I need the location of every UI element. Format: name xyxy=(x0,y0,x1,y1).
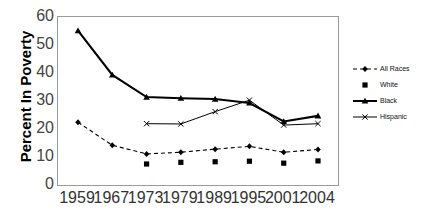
legend-swatch-icon xyxy=(352,111,378,123)
series-black xyxy=(75,27,322,124)
y-tick-label: 40 xyxy=(28,64,54,80)
poverty-line-chart: Percent In Poverty 6050403020100 1959196… xyxy=(0,0,440,218)
legend-swatch-icon xyxy=(352,95,378,107)
plot-series-svg xyxy=(58,17,338,185)
legend-swatch-icon xyxy=(352,63,378,75)
y-tick-label: 0 xyxy=(28,176,54,192)
legend-item-all-races[interactable]: All Races xyxy=(352,62,440,75)
legend-label: All Races xyxy=(378,65,410,72)
y-tick-label: 30 xyxy=(28,92,54,108)
legend-label: Hispanic xyxy=(378,113,407,120)
y-tick-label: 50 xyxy=(28,36,54,52)
legend-swatch-icon xyxy=(352,79,378,91)
y-tick-label: 20 xyxy=(28,120,54,136)
legend-item-black[interactable]: Black xyxy=(352,94,440,107)
series-white xyxy=(144,158,321,166)
x-tick-label: 2004 xyxy=(295,190,339,206)
legend-item-hispanic[interactable]: Hispanic xyxy=(352,110,440,123)
x-axis-tick-labels: 19591967197319791989199520012004 xyxy=(57,190,339,216)
legend-label: Black xyxy=(378,97,397,104)
legend-label: White xyxy=(378,81,398,88)
chart-legend: All RacesWhiteBlackHispanic xyxy=(352,62,440,126)
y-axis-tick-labels: 6050403020100 xyxy=(24,0,54,218)
plot-area xyxy=(57,16,339,186)
legend-item-white[interactable]: White xyxy=(352,78,440,91)
series-hispanic xyxy=(144,98,321,128)
y-tick-label: 10 xyxy=(28,148,54,164)
y-tick-label: 60 xyxy=(28,8,54,24)
